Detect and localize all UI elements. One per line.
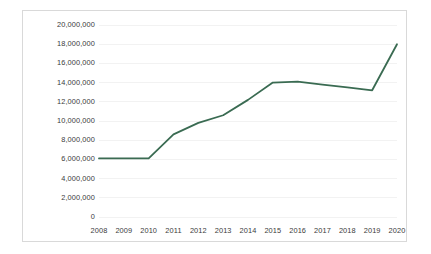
chart-plot-frame: 20,000,00018,000,00016,000,00014,000,000… (22, 10, 407, 242)
chart-inner-area: 20,000,00018,000,00016,000,00014,000,000… (23, 11, 408, 243)
x-tick-label: 2019 (364, 227, 381, 234)
x-tick-label: 2017 (314, 227, 331, 234)
x-tick-label: 2008 (91, 227, 108, 234)
x-tick-label: 2014 (240, 227, 257, 234)
x-tick-label: 2011 (165, 227, 181, 234)
x-axis: 2008200920102011201220132014201520162017… (23, 11, 408, 243)
x-tick-label: 2015 (264, 227, 281, 234)
x-tick-label: 2018 (339, 227, 356, 234)
x-tick-label: 2010 (140, 227, 157, 234)
x-tick-label: 2009 (115, 227, 132, 234)
x-tick-label: 2013 (215, 227, 232, 234)
line-chart-figure: 20,000,00018,000,00016,000,00014,000,000… (0, 0, 431, 254)
x-tick-label: 2016 (289, 227, 306, 234)
x-tick-label: 2012 (190, 227, 207, 234)
x-tick-label: 2020 (389, 227, 406, 234)
